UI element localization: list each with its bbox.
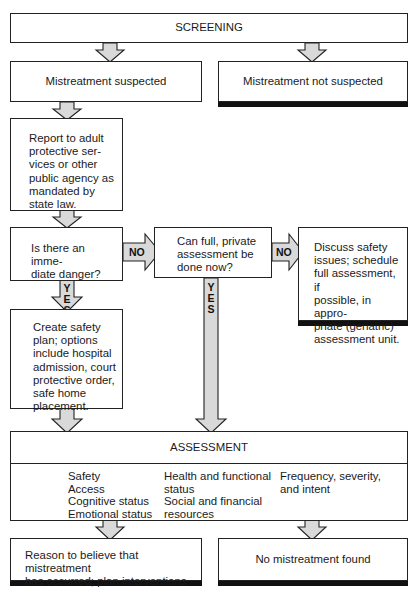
discuss-line: assessment unit. (314, 333, 403, 346)
assessment-col-3: Frequency, severity, and intent (280, 470, 381, 495)
no-label-2: NO (276, 246, 292, 258)
discuss-line: Discuss safety (314, 241, 403, 254)
danger-line: Is there an imme- (31, 242, 116, 268)
immediate-danger-box: Is there an imme- diate danger? (10, 227, 123, 281)
screening-title: SCREENING (175, 21, 243, 34)
mistreatment-suspected-box: Mistreatment suspected (10, 61, 202, 102)
assessment-col-2: Health and functional status Social and … (164, 470, 271, 520)
safety-plan-line: admission, court (33, 361, 116, 374)
no-mistreatment-label: No mistreatment found (255, 553, 370, 566)
not-suspected-label: Mistreatment not suspected (243, 75, 383, 88)
discuss-safety-box: Discuss safety issues; schedule full ass… (298, 227, 408, 321)
safety-plan-line: plan; options (33, 334, 116, 347)
can-full-line: assessment be (177, 248, 265, 261)
arrow-down-icon (298, 43, 326, 62)
no-label-1: NO (129, 246, 145, 258)
report-line: mandated by (29, 185, 116, 198)
report-line: state law. (29, 198, 116, 211)
assessment-box: ASSESSMENT Safety Access Cognitive statu… (10, 431, 408, 521)
mistreatment-not-suspected-box: Mistreatment not suspected (218, 61, 408, 102)
arrow-down-icon (53, 210, 81, 228)
report-box: Report to adult protective ser- vices or… (10, 118, 123, 211)
discuss-line: issues; schedule (314, 254, 403, 267)
safety-plan-line: safe home (33, 387, 116, 400)
assessment-col-1: Safety Access Cognitive status Emotional… (68, 470, 152, 520)
screening-box: SCREENING (10, 13, 408, 43)
danger-line: diate danger? (31, 268, 116, 281)
safety-plan-box: Create safety plan; options include hosp… (10, 309, 123, 409)
report-line: Report to adult (29, 132, 116, 145)
reason-line: Reason to believe that mistreatment (25, 549, 197, 575)
can-full-assessment-box: Can full, private assessment be done now… (154, 227, 272, 278)
arrow-down-icon (298, 520, 326, 540)
safety-plan-line: protective order, (33, 374, 116, 387)
discuss-line: full assessment, if (314, 267, 403, 293)
can-full-line: Can full, private (177, 235, 265, 248)
safety-plan-line: include hospital (33, 347, 116, 360)
report-line: protective ser- (29, 145, 116, 158)
suspected-label: Mistreatment suspected (46, 75, 167, 88)
assessment-title: ASSESSMENT (11, 441, 407, 454)
reason-line: has occurred; plan interventions. (25, 575, 197, 588)
yes-label-2: Y E S (205, 282, 217, 315)
safety-plan-line: Create safety (33, 321, 116, 334)
no-mistreatment-box: No mistreatment found (218, 538, 408, 581)
discuss-line: priate (geriatric) (314, 320, 403, 333)
report-line: vices or other (29, 158, 116, 171)
assessment-divider (11, 463, 407, 464)
arrow-down-icon (96, 43, 124, 62)
report-line: public agency as (29, 172, 116, 185)
safety-plan-line: placement. (33, 400, 116, 413)
arrow-down-icon (96, 520, 124, 540)
reason-to-believe-box: Reason to believe that mistreatment has … (10, 538, 202, 581)
can-full-line: done now? (177, 261, 265, 274)
discuss-line: possible, in appro- (314, 294, 403, 320)
